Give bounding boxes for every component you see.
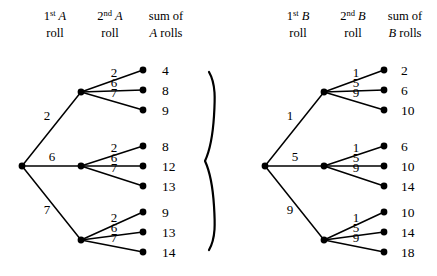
header-a-sum-line2: A rolls (149, 26, 183, 40)
tree-b-leaf-node-1-3 (381, 107, 388, 114)
tree-b-sum-2-1: 6 (401, 139, 408, 154)
header-b-first-roll-line1: 1st B (287, 8, 310, 23)
separator-brace (205, 72, 215, 250)
tree-b-leaf-node-3-2 (381, 229, 388, 236)
tree-a: 2246879628612713729613714 (19, 63, 176, 260)
tree-b-sum-1-2: 6 (401, 83, 408, 98)
tree-b-branch-1: 11256910 (265, 63, 415, 167)
trees-layer: 2246879628612713729613714112569105165109… (19, 63, 415, 260)
tree-b-sum-1-3: 10 (401, 103, 415, 118)
header-a-second-roll-line2: roll (101, 26, 119, 40)
tree-a-first-roll-label-2: 6 (49, 149, 56, 164)
header-b-sum-line2: B rolls (389, 26, 422, 40)
header-a-first-roll-line2: roll (46, 26, 64, 40)
header-b-second-roll-line1: 2nd B (340, 8, 366, 23)
tree-a-inner-node-1 (78, 89, 85, 96)
tree-b-first-roll-label-3: 9 (287, 202, 294, 217)
tree-a-sum-2-3: 13 (162, 179, 176, 194)
tree-b-leaf-node-3-1 (381, 209, 388, 216)
tree-a-sum-3-2: 13 (162, 225, 176, 240)
tree-a-leaf-node-3-3 (140, 249, 147, 256)
tree-b-first-edge-3 (265, 166, 324, 240)
tree-a-branch-2: 628612713 (22, 139, 176, 194)
tree-b-second-roll-label-3-3: 9 (353, 230, 360, 245)
tree-b-leaf-node-2-1 (381, 143, 388, 150)
tree-b-sum-2-3: 14 (401, 179, 415, 194)
tree-b-branch-3: 9110514918 (265, 166, 415, 260)
tree-b: 112569105165109149110514918 (262, 63, 415, 260)
tree-b-second-roll-label-1-3: 9 (353, 85, 360, 100)
tree-a-leaf-node-2-3 (140, 183, 147, 190)
tree-a-leaf-node-1-1 (140, 67, 147, 74)
tree-b-second-roll-label-2-3: 9 (353, 160, 360, 175)
header-a-sum-line1: sum of (149, 9, 184, 23)
tree-a-inner-node-3 (78, 237, 85, 244)
tree-a-second-roll-label-3-3: 7 (111, 230, 118, 245)
tree-b-first-roll-label-2: 5 (292, 149, 299, 164)
tree-a-leaf-node-2-2 (140, 163, 147, 170)
tree-a-sum-2-2: 12 (162, 159, 176, 174)
tree-a-sum-3-3: 14 (162, 245, 176, 260)
tree-b-leaf-node-1-1 (381, 67, 388, 74)
tree-a-first-edge-3 (22, 166, 81, 240)
tree-b-branch-2: 516510914 (265, 139, 415, 194)
tree-a-branch-1: 2246879 (22, 63, 169, 167)
tree-b-inner-node-2 (321, 163, 328, 170)
tree-b-leaf-node-2-2 (381, 163, 388, 170)
tree-a-first-roll-label-3: 7 (44, 202, 51, 217)
tree-b-sum-3-2: 14 (401, 225, 415, 240)
right-curly-brace-icon (205, 72, 215, 250)
tree-b-leaf-node-3-3 (381, 249, 388, 256)
tree-b-sum-3-1: 10 (401, 205, 415, 220)
header-b-second-roll-line2: roll (344, 26, 362, 40)
tree-b-sum-2-2: 10 (401, 159, 415, 174)
tree-a-leaf-node-1-3 (140, 107, 147, 114)
tree-a-sum-2-1: 8 (162, 139, 169, 154)
tree-b-leaf-node-1-2 (381, 87, 388, 94)
tree-a-sum-1-2: 8 (162, 83, 169, 98)
tree-diagram-canvas: 1st Aroll2nd Arollsum ofA rolls1st Broll… (0, 0, 437, 276)
tree-a-root-node (19, 163, 26, 170)
tree-a-sum-3-1: 9 (162, 205, 169, 220)
tree-a-leaf-node-2-1 (140, 143, 147, 150)
tree-a-leaf-node-3-1 (140, 209, 147, 216)
tree-a-second-roll-label-1-3: 7 (111, 85, 118, 100)
column-headers: 1st Aroll2nd Arollsum ofA rolls1st Broll… (44, 8, 423, 40)
tree-b-first-roll-label-1: 1 (287, 108, 294, 123)
tree-b-inner-node-1 (321, 89, 328, 96)
tree-b-inner-node-3 (321, 237, 328, 244)
tree-b-sum-1-1: 2 (401, 63, 408, 78)
probability-tree-diagram: 1st Aroll2nd Arollsum ofA rolls1st Broll… (0, 0, 437, 276)
tree-b-leaf-node-2-3 (381, 183, 388, 190)
tree-a-sum-1-3: 9 (162, 103, 169, 118)
tree-b-root-node (262, 163, 269, 170)
tree-a-leaf-node-1-2 (140, 87, 147, 94)
tree-a-sum-1-1: 4 (162, 63, 169, 78)
tree-b-sum-3-3: 18 (401, 245, 415, 260)
header-b-sum-line1: sum of (388, 9, 423, 23)
header-a-second-roll-line1: 2nd A (97, 8, 123, 23)
tree-a-leaf-node-3-2 (140, 229, 147, 236)
header-b-first-roll-line2: roll (289, 26, 307, 40)
tree-a-first-roll-label-1: 2 (44, 108, 51, 123)
tree-a-branch-3: 729613714 (22, 166, 176, 260)
tree-a-inner-node-2 (78, 163, 85, 170)
header-a-first-roll-line1: 1st A (44, 8, 67, 23)
tree-a-second-roll-label-2-3: 7 (111, 160, 118, 175)
